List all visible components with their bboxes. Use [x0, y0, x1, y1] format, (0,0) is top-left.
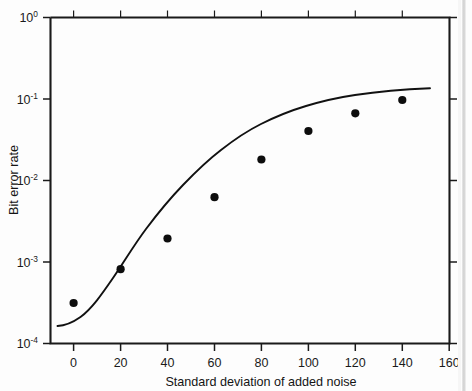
x-axis-ticks	[74, 344, 450, 352]
x-axis-title: Standard deviation of added noise	[165, 375, 356, 389]
data-point	[70, 299, 78, 307]
y-tick-label-exponent-1: -1	[31, 91, 39, 101]
x-tick-label-1: 20	[114, 356, 128, 370]
svg-text:10-4: 10-4	[17, 335, 39, 351]
svg-text:10-1: 10-1	[17, 91, 39, 107]
svg-text:100: 100	[19, 9, 38, 25]
data-point	[304, 127, 312, 135]
y-axis-ticks	[43, 18, 51, 344]
x-tick-labels: 0 20 40 60 80 100 120 140 160	[70, 356, 460, 370]
x-tick-label-0: 0	[70, 356, 77, 370]
x-tick-label-8: 160	[439, 356, 460, 370]
scan-page-inner-edge	[458, 0, 461, 391]
y-axis-title: Bit error rate	[7, 145, 21, 215]
data-point	[351, 109, 359, 117]
x-tick-label-5: 100	[298, 356, 319, 370]
data-point	[257, 155, 265, 163]
svg-text:10-3: 10-3	[17, 254, 39, 270]
bit-error-rate-chart: 100 10-1 10-2 10-3 10-4 0 20 40 60 80 10…	[0, 0, 472, 391]
scan-page-edge	[462, 0, 466, 391]
y-tick-label-mantissa-4: 10	[17, 337, 31, 351]
y-tick-label-exponent-3: -3	[31, 254, 39, 264]
y-tick-label-mantissa-3: 10	[17, 256, 31, 270]
y-tick-label-exponent-4: -4	[31, 335, 39, 345]
x-tick-label-2: 40	[161, 356, 175, 370]
axes-frame	[51, 18, 450, 344]
y-axis-ticks-right	[450, 18, 458, 344]
x-tick-label-3: 60	[208, 356, 222, 370]
x-tick-label-6: 120	[345, 356, 366, 370]
y-tick-label-mantissa-1: 10	[17, 93, 31, 107]
figure-container: 100 10-1 10-2 10-3 10-4 0 20 40 60 80 10…	[0, 0, 472, 391]
data-point	[163, 234, 171, 242]
data-points	[70, 96, 407, 307]
x-tick-label-7: 140	[392, 356, 413, 370]
y-tick-label-exponent-0: 0	[33, 9, 38, 19]
data-point	[210, 193, 218, 201]
data-point	[117, 265, 125, 273]
data-point	[398, 96, 406, 104]
y-tick-label-exponent-2: -2	[31, 172, 39, 182]
x-tick-label-4: 80	[254, 356, 268, 370]
fitted-curve	[58, 88, 431, 326]
y-tick-label-mantissa-0: 10	[19, 11, 33, 25]
